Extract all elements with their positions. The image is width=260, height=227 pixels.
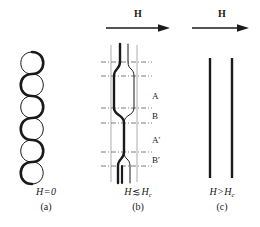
panel-c: H H>Hc (c) — [184, 0, 260, 227]
panel-c-field-symbol: H — [209, 186, 216, 197]
flux-strand-right — [124, 44, 134, 183]
panel-b-field-relation: ≲ — [131, 186, 141, 197]
panel-a-caption-letter: (a) — [0, 201, 92, 212]
region-label-b-prime: B′ — [152, 155, 160, 165]
panel-c-field-value: H — [224, 186, 231, 197]
panel-b-field-condition: H≲Hc — [92, 186, 184, 199]
panel-b-caption-letter: (b) — [92, 201, 184, 212]
panel-a: H=0 (a) — [0, 0, 92, 227]
panel-b: H — [92, 0, 184, 227]
panel-a-field-relation: = — [43, 186, 51, 197]
panel-c-field-subscript: c — [232, 191, 235, 199]
region-label-b: B — [152, 111, 158, 121]
region-label-a: A — [152, 91, 159, 101]
flux-strand-left — [114, 44, 124, 183]
panel-a-field-value: 0 — [51, 186, 56, 197]
panel-b-field-subscript: c — [149, 191, 152, 199]
panel-a-field-condition: H=0 — [0, 186, 92, 197]
panel-b-field-value: H — [141, 186, 148, 197]
figure-root: H=0 (a) H — [0, 0, 260, 227]
region-label-a-prime: A′ — [152, 135, 160, 145]
construction-line-group — [111, 45, 137, 182]
panel-c-field-condition: H>Hc — [184, 186, 260, 199]
guideline-group — [101, 62, 152, 166]
panel-c-caption-letter: (c) — [184, 201, 260, 212]
